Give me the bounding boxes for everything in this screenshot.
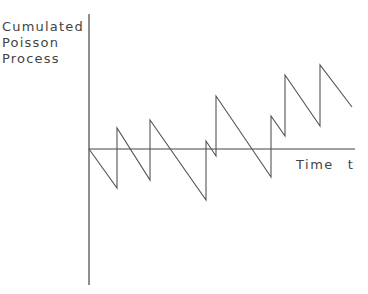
plot-area [0,0,368,294]
process-path [89,65,352,200]
